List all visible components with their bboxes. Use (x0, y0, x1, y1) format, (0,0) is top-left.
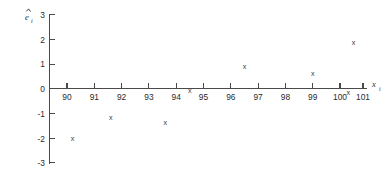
y-axis-tick-labels: 3 2 1 0 -1 -2 -3 (38, 10, 46, 168)
y-axis-label-subscript: i (31, 18, 33, 24)
x-tick-label: 101 (356, 92, 370, 102)
x-axis-ticks (67, 83, 363, 89)
x-tick-label: 96 (226, 92, 236, 102)
y-tick-label: 0 (40, 84, 45, 94)
data-point-marker: x (346, 88, 350, 97)
x-tick-label: 97 (253, 92, 263, 102)
x-axis-label-text: x (371, 79, 376, 89)
x-tick-label: 90 (62, 92, 72, 102)
y-tick-label: 3 (40, 10, 45, 20)
y-tick-label: -1 (38, 109, 46, 119)
data-point-marker: x (71, 134, 75, 143)
y-axis-label: e i (25, 9, 33, 24)
data-point-marker: x (352, 38, 356, 47)
x-tick-label: 100 (333, 92, 347, 102)
y-tick-label: -3 (38, 158, 46, 168)
y-tick-label: 1 (40, 59, 45, 69)
residual-scatter-plot: 3 2 1 0 -1 -2 -3 90 91 92 93 (0, 0, 392, 184)
x-axis-label-subscript: i (379, 86, 381, 92)
x-tick-label: 99 (308, 92, 318, 102)
plot-canvas: 3 2 1 0 -1 -2 -3 90 91 92 93 (0, 0, 392, 184)
y-tick-label: 2 (40, 35, 45, 45)
y-axis-label-text: e (25, 12, 29, 22)
x-axis-tick-labels: 90 91 92 93 94 95 96 97 98 99 100 101 (62, 92, 370, 102)
x-tick-label: 93 (144, 92, 154, 102)
data-point-marker: x (163, 118, 167, 127)
x-tick-label: 98 (281, 92, 291, 102)
data-point-group: xxxxxxxx (71, 38, 356, 143)
x-tick-label: 94 (172, 92, 182, 102)
x-tick-label: 95 (199, 92, 209, 102)
x-tick-label: 92 (117, 92, 127, 102)
x-tick-label: 91 (90, 92, 100, 102)
x-axis-label: x i (371, 79, 381, 92)
data-point-marker: x (311, 69, 315, 78)
data-point-marker: x (243, 62, 247, 71)
data-point-marker: x (109, 113, 113, 122)
data-point-marker: x (188, 86, 192, 95)
y-tick-label: -2 (38, 134, 46, 144)
